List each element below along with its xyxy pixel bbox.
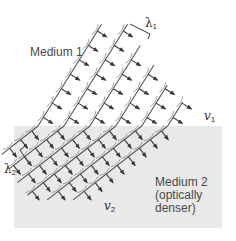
huygens-wavelet [125, 53, 131, 63]
huygens-wavelet [141, 111, 147, 121]
propagation-arrow [113, 89, 122, 95]
v-1-label: v1 [204, 110, 215, 126]
huygens-wavelet [116, 68, 122, 78]
medium-1-label: Medium 1 [30, 46, 83, 59]
wavefront-segment [64, 24, 128, 126]
lambda-1-label: λ1 [145, 17, 157, 33]
propagation-arrow [148, 74, 157, 80]
propagation-arrow [130, 103, 139, 109]
huygens-wavelet [92, 24, 98, 34]
huygens-wavelet [65, 68, 71, 78]
huygens-wavelet [167, 111, 173, 121]
v-2-sub: 2 [111, 205, 115, 214]
huygens-wavelet [176, 96, 182, 106]
huygens-wavelet [133, 82, 139, 92]
v-2-letter: v [104, 199, 111, 213]
lambda-2-sub: 2 [12, 168, 16, 177]
propagation-arrow [70, 74, 79, 80]
propagation-arrow [96, 74, 105, 80]
lambda-1-sub: 1 [153, 22, 157, 31]
propagation-arrow [121, 118, 130, 124]
v-1-letter: v [204, 109, 211, 123]
huygens-wavelet [159, 82, 165, 92]
propagation-arrow [79, 60, 88, 66]
propagation-arrow [78, 103, 87, 109]
propagation-arrow [95, 118, 104, 124]
huygens-wavelet [107, 82, 113, 92]
propagation-arrow [165, 89, 174, 95]
v-2-label: v2 [104, 200, 115, 216]
huygens-wavelet [89, 111, 95, 121]
propagation-arrow [97, 31, 106, 37]
huygens-wavelet [109, 39, 115, 49]
huygens-wavelet [3, 142, 12, 149]
propagation-arrow [122, 74, 131, 80]
huygens-wavelet [83, 39, 89, 49]
propagation-arrow [105, 60, 114, 66]
huygens-wavelet [118, 24, 124, 34]
propagation-arrow [123, 31, 132, 37]
wavefront-segment [148, 34, 150, 39]
lambda-2-label: λ2 [4, 163, 16, 179]
huygens-wavelet [82, 82, 88, 92]
huygens-wavelet [64, 111, 70, 121]
huygens-wavelet [98, 96, 104, 106]
huygens-wavelet [91, 68, 97, 78]
huygens-wavelet [124, 96, 130, 106]
lambda-1-letter: λ [145, 16, 153, 30]
wavefront-segment [38, 24, 102, 126]
huygens-wavelet [47, 96, 53, 106]
propagation-arrow [147, 118, 156, 124]
medium-2-label: Medium 2 (optically denser) [155, 176, 208, 215]
huygens-wavelet [150, 96, 156, 106]
huygens-wavelet [100, 53, 106, 63]
propagation-arrow [43, 118, 52, 124]
huygens-wavelet [142, 68, 148, 78]
huygens-wavelet [115, 111, 121, 121]
wavefront-segment [142, 85, 167, 126]
propagation-arrow [87, 89, 96, 95]
wavefront-segment [90, 45, 140, 126]
propagation-arrow [173, 118, 182, 124]
huygens-wavelet [56, 82, 62, 92]
propagation-arrow [182, 103, 191, 109]
propagation-arrow [104, 103, 113, 109]
huygens-wavelet [38, 111, 44, 121]
propagation-arrow [114, 45, 123, 51]
v-1-sub: 1 [211, 115, 215, 124]
propagation-arrow [61, 89, 70, 95]
propagation-arrow [52, 103, 61, 109]
medium-2-label-line3: denser) [155, 202, 208, 215]
propagation-arrow [139, 89, 148, 95]
huygens-wavelet [73, 96, 79, 106]
lambda-2-letter: λ [4, 162, 12, 176]
propagation-arrow [88, 45, 97, 51]
propagation-arrow [131, 60, 140, 66]
propagation-arrow [69, 118, 78, 124]
propagation-arrow [156, 103, 165, 109]
